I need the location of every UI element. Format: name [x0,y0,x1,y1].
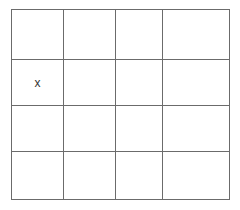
board-cell-r1-c1[interactable] [64,60,115,105]
board-cell-r3-c1[interactable] [64,152,115,199]
game-board: x [11,9,229,199]
board-cell-r1-c3[interactable] [163,60,229,105]
board-cell-r1-c0[interactable]: x [12,60,63,105]
grid-line-horizontal [11,199,230,200]
grid-line-vertical [229,9,230,200]
board-cell-r0-c0[interactable] [12,10,63,59]
board-cell-r3-c3[interactable] [163,152,229,199]
board-cell-r2-c2[interactable] [116,106,162,151]
board-cell-r3-c2[interactable] [116,152,162,199]
board-cell-r0-c1[interactable] [64,10,115,59]
board-cell-r2-c1[interactable] [64,106,115,151]
board-cell-r3-c0[interactable] [12,152,63,199]
board-cell-r1-c2[interactable] [116,60,162,105]
board-cell-r0-c2[interactable] [116,10,162,59]
board-cell-r2-c3[interactable] [163,106,229,151]
board-cell-r0-c3[interactable] [163,10,229,59]
board-cell-r2-c0[interactable] [12,106,63,151]
